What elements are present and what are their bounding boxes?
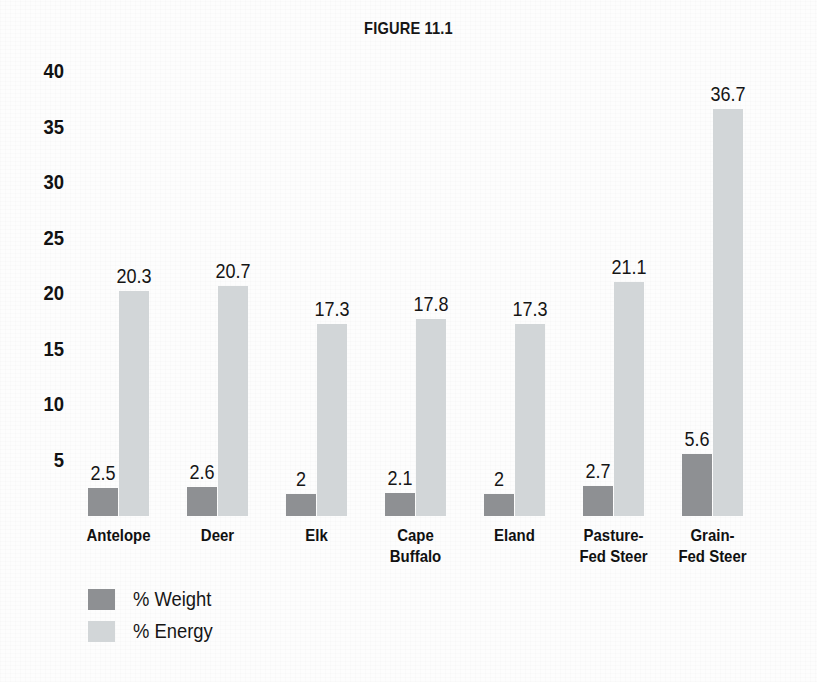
bar-chart-plot-area: 2.520.3Antelope2.620.7Deer217.3Elk2.117.…: [0, 0, 817, 682]
legend-swatch: [88, 589, 115, 610]
bar-value-label: 21.1: [599, 256, 658, 279]
bar-elk-energy: [317, 324, 347, 516]
bar-grain--fed-steer-energy: [713, 109, 743, 516]
figure-page: FIGURE 11.1 403530252015105 2.520.3Antel…: [0, 0, 817, 682]
x-axis-category-label: Deer: [163, 525, 273, 546]
legend-item: % Energy: [88, 615, 220, 647]
bar-grain--fed-steer-weight: [682, 454, 712, 516]
bar-cape-buffalo-energy: [416, 319, 446, 516]
x-axis-category-label: Antelope: [64, 525, 174, 546]
legend-item: % Weight: [88, 583, 220, 615]
bar-pasture--fed-steer-energy: [614, 282, 644, 516]
bar-elk-weight: [286, 494, 316, 516]
bar-cape-buffalo-weight: [385, 493, 415, 516]
x-axis-category-label: Elk: [262, 525, 372, 546]
x-axis-category-label: Grain- Fed Steer: [658, 525, 768, 567]
legend-label: % Weight: [133, 588, 211, 611]
bar-value-label: 20.7: [203, 260, 262, 283]
bar-pasture--fed-steer-weight: [583, 486, 613, 516]
bar-value-label: 17.8: [401, 293, 460, 316]
x-axis-category-label: Eland: [460, 525, 570, 546]
bar-value-label: 17.3: [302, 298, 361, 321]
legend-swatch: [88, 621, 115, 642]
legend-label: % Energy: [133, 620, 213, 643]
x-axis-category-label: Cape Buffalo: [361, 525, 471, 567]
x-axis-category-label: Pasture- Fed Steer: [559, 525, 669, 567]
bar-deer-energy: [218, 286, 248, 516]
bar-value-label: 36.7: [698, 83, 757, 106]
bar-antelope-weight: [88, 488, 118, 516]
bar-eland-energy: [515, 324, 545, 516]
chart-legend: % Weight% Energy: [88, 583, 220, 647]
bar-deer-weight: [187, 487, 217, 516]
bar-value-label: 17.3: [500, 298, 559, 321]
bar-value-label: 20.3: [104, 265, 163, 288]
bar-eland-weight: [484, 494, 514, 516]
bar-antelope-energy: [119, 291, 149, 516]
